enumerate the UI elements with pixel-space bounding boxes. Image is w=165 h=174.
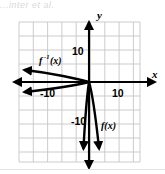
- curve-f-inverse-branch-lower: [25, 82, 89, 92]
- curve-label-f-inverse-exponent: -1: [44, 53, 49, 60]
- curve-label-f-inverse: f -1 (x): [39, 53, 62, 67]
- tick-label-x-positive-10: 10: [112, 87, 124, 99]
- curve-label-f-inverse-arg: (x): [50, 55, 62, 67]
- curve-f-inverse-branch-upper: [25, 70, 89, 82]
- y-axis-label: y: [95, 9, 102, 21]
- figure-container: ...inter et al.: [0, 0, 165, 174]
- coordinate-graph: y x 10 -10 10 -10 f -1 (x) f(x): [0, 0, 165, 174]
- tick-label-y-positive-10: 10: [72, 45, 84, 57]
- bottom-divider: [0, 169, 165, 170]
- x-axis-label: x: [151, 68, 158, 80]
- curve-label-f: f(x): [101, 120, 116, 132]
